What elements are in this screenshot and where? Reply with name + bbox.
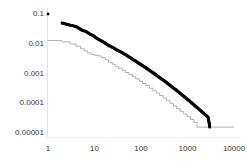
x-tick-label: 100: [134, 145, 147, 153]
x-tick-label: 1000: [179, 145, 197, 153]
y-tick-label: 0.001: [24, 70, 44, 78]
y-tick-label: 0.1: [33, 10, 44, 18]
y-tick-label: 0.0001: [20, 99, 44, 107]
chart-plot-svg: [0, 0, 247, 162]
data-point-marker: [47, 13, 50, 16]
x-tick-label: 10: [90, 145, 99, 153]
x-tick-label: 10000: [223, 145, 245, 153]
series-black-markers: [47, 13, 211, 129]
y-tick-label: 0.01: [28, 40, 44, 48]
data-point-marker: [208, 126, 211, 129]
chart-container: 0.10.010.0010.00010.00001 11010010001000…: [0, 0, 247, 162]
x-tick-label: 1: [46, 145, 50, 153]
y-tick-label: 0.00001: [15, 129, 44, 137]
